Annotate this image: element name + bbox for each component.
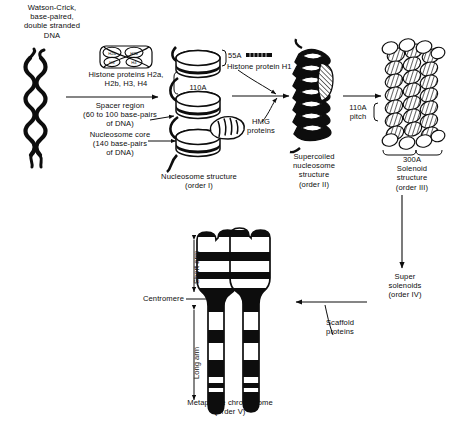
label-nucleosome-height: 110A <box>182 83 214 92</box>
svg-text:H2b: H2b <box>130 51 138 56</box>
label-metaphase-chromosome: Metaphase chromosome (order V) <box>150 398 310 416</box>
page-title: Watson-Crick, base-paired, double strand… <box>2 3 102 40</box>
svg-text:H3: H3 <box>109 60 115 65</box>
label-nucleosome-structure: Nucleosome structure (order I) <box>142 172 256 190</box>
label-long-arm: Long arm <box>192 347 201 379</box>
supercoiled-nucleosome-icon <box>290 39 333 152</box>
label-hmg-proteins: HMG proteins <box>240 117 282 135</box>
label-short-arm: Short arm <box>192 251 201 284</box>
label-supercoiled-structure: Supercoiled nucleosome structure (order … <box>277 152 351 189</box>
solenoid-structure-icon <box>374 37 446 155</box>
label-nucleosome-core: Nucleosome core (140 base-pairs of DNA) <box>54 130 186 158</box>
label-histone-proteins: Histone proteins H2a, H2b, H3, H4 <box>62 70 190 88</box>
label-scaffold-proteins: Scaffold proteins <box>310 318 370 336</box>
label-solenoid-structure: 300A Solenoid structure (order III) <box>378 155 446 192</box>
label-h1-measure: 55A <box>228 51 250 60</box>
label-histone-h1: Histone protein H1 <box>227 62 323 71</box>
label-pitch: 110A pitch <box>340 103 376 121</box>
dna-packaging-diagram: H2a H2b H3 H4 <box>0 0 451 437</box>
histone-octamer-icon: H2a H2b H3 H4 <box>100 46 152 68</box>
svg-text:H4: H4 <box>131 60 137 65</box>
diagram-artwork: H2a H2b H3 H4 <box>0 0 451 437</box>
feed-histone-h1 <box>238 70 276 94</box>
label-super-solenoids: Super solenoids (order IV) <box>372 272 438 300</box>
label-centromere: Centromere <box>124 294 184 303</box>
label-spacer-region: Spacer region (60 to 100 base-pairs of D… <box>54 101 186 129</box>
svg-text:H2a: H2a <box>108 51 116 56</box>
dna-double-helix-icon <box>26 49 46 167</box>
